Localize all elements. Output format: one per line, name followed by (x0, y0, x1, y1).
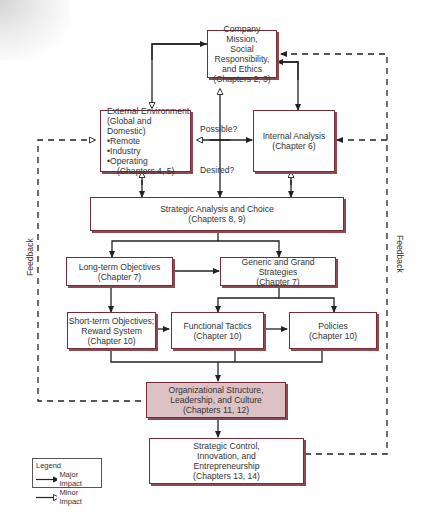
node-functional-tactics: Functional Tactics (Chapter 10) (171, 312, 264, 349)
hollow-arrow-icon (36, 494, 57, 501)
legend-major: Major Impact (36, 470, 98, 488)
label-desired: Desired? (200, 165, 234, 175)
node-organizational-structure: Organizational Structure, Leadership, an… (146, 382, 286, 418)
solid-arrow-icon (36, 476, 57, 483)
legend: Legend Major Impact Minor Impact (32, 458, 102, 488)
feedback-label-right: Feedback (395, 235, 405, 273)
node-internal-analysis: Internal Analysis (Chapter 6) (253, 110, 335, 172)
node-strategic-control: Strategic Control, Innovation, and Entre… (149, 438, 304, 484)
feedback-label-left: Feedback (25, 238, 35, 276)
legend-title: Legend (36, 461, 98, 470)
node-policies: Policies (Chapter 10) (289, 312, 377, 349)
environment-list: Remote Industry Operating (107, 136, 148, 166)
node-short-term-objectives: Short-term Objectives; Reward System (Ch… (67, 312, 156, 349)
legend-minor: Minor Impact (36, 488, 98, 506)
node-company-mission: Company Mission, Social Responsibility, … (207, 30, 277, 78)
node-generic-grand-strategies: Generic and Grand Strategies (Chapter 7) (220, 257, 336, 286)
node-external-environment: External Environment (Global and Domesti… (100, 110, 191, 172)
node-strategic-analysis: Strategic Analysis and Choice (Chapters … (90, 197, 344, 231)
node-long-term-objectives: Long-term Objectives (Chapter 7) (66, 257, 173, 286)
label-possible: Possible? (200, 124, 237, 134)
